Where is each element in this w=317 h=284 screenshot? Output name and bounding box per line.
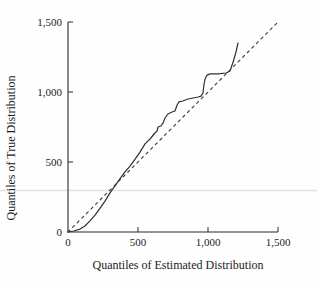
y-tick-label: 1,500 (37, 16, 62, 28)
x-tick-label: 0 (65, 236, 71, 248)
x-tick-label: 1,000 (196, 236, 221, 248)
x-tick-label: 500 (130, 236, 147, 248)
x-tick-label: 1,500 (266, 236, 291, 248)
plot-dynamic-layer: 05001,0001,50005001,0001,500 (37, 16, 291, 248)
y-axis-title: Quantiles of True Distribution (4, 75, 18, 220)
y-tick-label: 1,000 (37, 86, 62, 98)
qq-plot-figure: 05001,0001,50005001,0001,500 Quantiles o… (0, 0, 317, 284)
x-axis-title: Quantiles of Estimated Distribution (93, 258, 264, 272)
qq-plot-canvas: 05001,0001,50005001,0001,500 Quantiles o… (0, 0, 317, 284)
y-tick-label: 500 (46, 156, 63, 168)
qq-curve-line (68, 43, 238, 232)
axis-lines (68, 22, 278, 232)
y-tick-label: 0 (57, 226, 63, 238)
reference-diagonal-line (68, 22, 278, 232)
